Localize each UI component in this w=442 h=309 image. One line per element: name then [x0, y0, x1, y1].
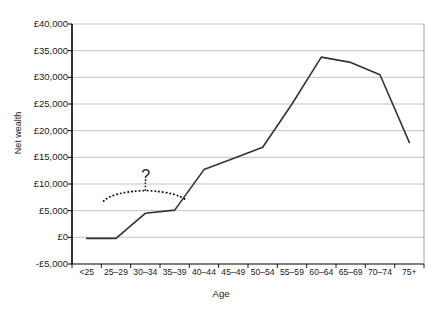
dotted-brace-icon [104, 191, 187, 202]
axis-lines [72, 24, 424, 264]
question-mark-annotation: ? [141, 167, 150, 185]
axis-tick-marks [68, 24, 424, 268]
chart-figure: Net wealth Age £40,000£35,000£30,000£25,… [0, 0, 442, 309]
gridlines [72, 24, 424, 237]
chart-canvas [0, 0, 442, 309]
data-line-net-wealth [87, 57, 410, 238]
